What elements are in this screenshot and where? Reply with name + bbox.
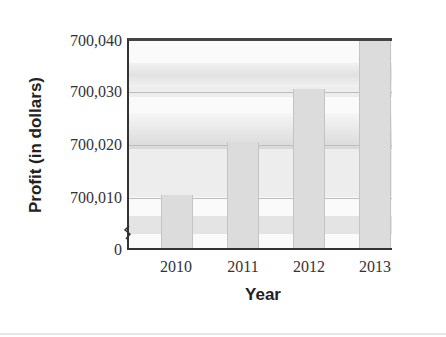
plot-area [127, 38, 392, 250]
bar-2013 [359, 38, 391, 248]
bar-2011 [227, 142, 259, 248]
y-axis-label: Profit (in dollars) [26, 77, 46, 213]
gridline-700030 [129, 92, 392, 93]
x-tick-2011: 2011 [227, 258, 258, 276]
x-tick-2012: 2012 [293, 258, 325, 276]
x-tick-2013: 2013 [359, 258, 391, 276]
y-tick-700040: 700,040 [70, 33, 122, 49]
x-axis-label: Year [245, 285, 281, 305]
y-tick-700030: 700,030 [70, 84, 122, 100]
y-tick-0: 0 [114, 242, 122, 258]
gridline-700020 [129, 145, 392, 146]
y-tick-700020: 700,020 [70, 137, 122, 153]
axis-break-icon [121, 226, 135, 240]
bar-2012 [293, 89, 325, 248]
y-tick-700010: 700,010 [70, 190, 122, 206]
bar-2010 [161, 195, 193, 248]
divider [0, 333, 446, 335]
x-tick-2010: 2010 [160, 258, 192, 276]
